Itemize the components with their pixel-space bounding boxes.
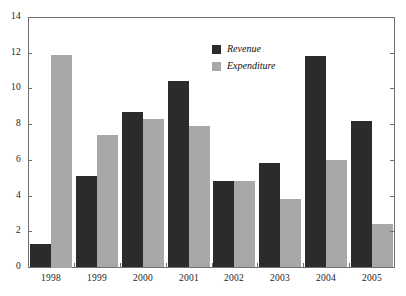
y-axis-tick-mark [28,88,32,89]
x-axis-tick-label: 2005 [362,274,382,284]
x-axis-tick-mark [257,263,258,267]
y-axis-tick-mark [28,196,32,197]
bar-expenditure [326,160,347,267]
bars-layer [0,0,406,296]
y-axis-tick-mark-right [390,124,394,125]
x-axis-tick-label: 1998 [41,274,61,284]
y-axis-tick-mark [28,160,32,161]
y-axis-tick-mark-right [390,53,394,54]
bar-revenue [351,121,372,267]
bar-revenue [122,112,143,267]
bar-revenue [30,244,51,267]
y-axis-tick-mark-right [390,88,394,89]
y-axis-tick-mark [28,267,32,268]
bar-revenue [305,56,326,267]
x-axis-tick-label: 2003 [270,274,290,284]
bar-expenditure [189,126,210,267]
bar-revenue [168,81,189,267]
x-axis-tick-mark [74,263,75,267]
legend-label-expenditure: Expenditure [227,61,276,71]
y-axis-tick-mark-right [390,231,394,232]
bar-expenditure [143,119,164,267]
y-axis-tick-mark-right [390,17,394,18]
bar-chart: 02468101214 Revenue Expenditure 19981999… [0,0,406,296]
x-axis-tick-label: 2004 [316,274,336,284]
bar-revenue [213,181,234,267]
bar-revenue [259,163,280,267]
x-axis-tick-mark [303,263,304,267]
x-axis-tick-label: 2000 [133,274,153,284]
x-axis-tick-label: 1999 [87,274,107,284]
legend: Revenue Expenditure [212,42,276,76]
x-axis-tick-mark [349,263,350,267]
legend-swatch-expenditure-icon [212,62,221,71]
x-axis-tick-mark [212,263,213,267]
x-axis-tick-mark [120,263,121,267]
x-axis-tick-mark [166,263,167,267]
bar-expenditure [280,199,301,267]
y-axis-tick-mark [28,231,32,232]
y-axis-tick-mark-right [390,160,394,161]
y-axis-tick-mark [28,53,32,54]
x-axis-tick-label: 2001 [179,274,199,284]
y-axis-tick-mark [28,17,32,18]
bar-expenditure [234,181,255,267]
legend-label-revenue: Revenue [227,44,261,54]
legend-swatch-revenue-icon [212,45,221,54]
x-axis-tick-label: 2002 [224,274,244,284]
bar-expenditure [97,135,118,267]
legend-entry-revenue: Revenue [212,42,276,56]
bar-expenditure [51,55,72,268]
y-axis-tick-mark-right [390,196,394,197]
y-axis-tick-mark [28,124,32,125]
bar-revenue [76,176,97,267]
legend-entry-expenditure: Expenditure [212,59,276,73]
